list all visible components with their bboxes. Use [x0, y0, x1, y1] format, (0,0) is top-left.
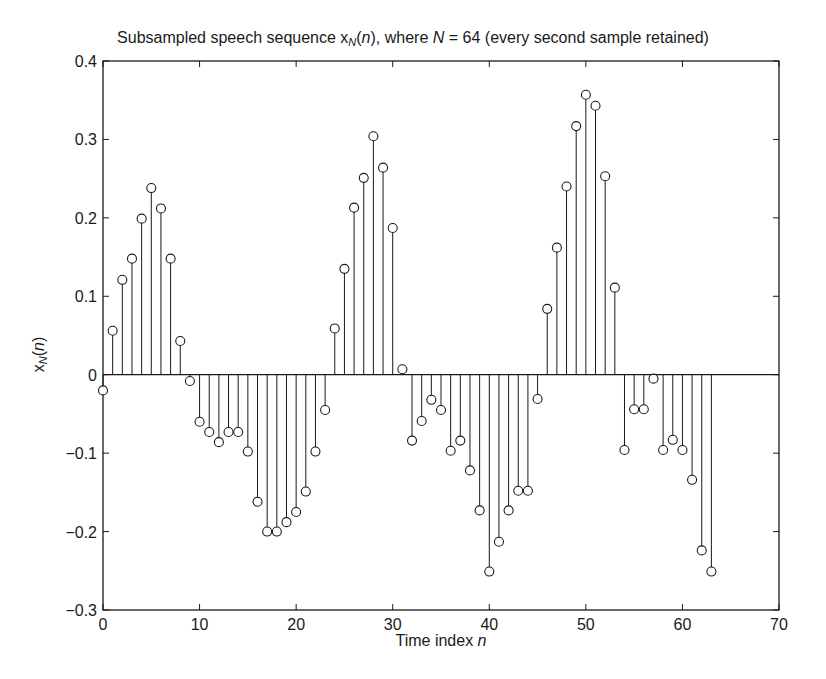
- stem-marker: [253, 497, 262, 506]
- x-tick-label: 0: [99, 616, 108, 633]
- stem-marker: [572, 122, 581, 131]
- stem-marker: [562, 182, 571, 191]
- y-axis-label: xN(n): [30, 337, 49, 373]
- stem-marker: [301, 487, 310, 496]
- stem-marker: [340, 264, 349, 273]
- x-tick-label: 60: [674, 616, 692, 633]
- stem-marker: [398, 365, 407, 374]
- stem-marker: [523, 486, 532, 495]
- stem-marker: [311, 447, 320, 456]
- y-tick-label: 0.4: [75, 53, 97, 70]
- y-tick-label: −0.3: [65, 602, 97, 619]
- stem-marker: [475, 506, 484, 515]
- stem-marker: [166, 254, 175, 263]
- y-tick-label: 0.2: [75, 210, 97, 227]
- stem-marker: [243, 447, 252, 456]
- stem-marker: [118, 275, 127, 284]
- stem-marker: [591, 101, 600, 110]
- stem-marker: [659, 446, 668, 455]
- stem-marker: [214, 438, 223, 447]
- axes-box: [103, 61, 779, 610]
- stem-plot: 010203040506070−0.3−0.2−0.100.10.20.30.4: [0, 0, 826, 679]
- stem-marker: [156, 204, 165, 213]
- stem-marker: [514, 486, 523, 495]
- stem-marker: [176, 336, 185, 345]
- stem-marker: [668, 435, 677, 444]
- stem-marker: [108, 326, 117, 335]
- stem-marker: [678, 446, 687, 455]
- stem-marker: [195, 417, 204, 426]
- stem-marker: [388, 224, 397, 233]
- y-tick-label: −0.1: [65, 445, 97, 462]
- x-tick-label: 70: [770, 616, 788, 633]
- stem-marker: [379, 163, 388, 172]
- stem-marker: [465, 466, 474, 475]
- x-tick-label: 40: [480, 616, 498, 633]
- stem-marker: [533, 395, 542, 404]
- x-tick-label: 10: [191, 616, 209, 633]
- stem-marker: [446, 446, 455, 455]
- stem-marker: [649, 374, 658, 383]
- stem-marker: [427, 395, 436, 404]
- stem-marker: [639, 405, 648, 414]
- stem-marker: [552, 243, 561, 252]
- x-axis-label: Time index n: [103, 632, 779, 650]
- stem-marker: [282, 518, 291, 527]
- x-tick-label: 30: [384, 616, 402, 633]
- stem-marker: [417, 416, 426, 425]
- stem-marker: [292, 507, 301, 516]
- y-tick-label: −0.2: [65, 524, 97, 541]
- stem-marker: [99, 386, 108, 395]
- y-tick-label: 0: [88, 367, 97, 384]
- x-tick-label: 50: [577, 616, 595, 633]
- stem-marker: [504, 506, 513, 515]
- stem-marker: [688, 475, 697, 484]
- stem-marker: [707, 567, 716, 576]
- y-tick-label: 0.3: [75, 131, 97, 148]
- stem-marker: [581, 90, 590, 99]
- stem-marker: [369, 132, 378, 141]
- y-tick-label: 0.1: [75, 288, 97, 305]
- stem-marker: [321, 406, 330, 415]
- stem-marker: [137, 214, 146, 223]
- stem-marker: [330, 324, 339, 333]
- stem-marker: [359, 173, 368, 182]
- stem-marker: [224, 427, 233, 436]
- stem-marker: [272, 527, 281, 536]
- stem-marker: [263, 527, 272, 536]
- stem-marker: [127, 254, 136, 263]
- stem-marker: [494, 537, 503, 546]
- stem-marker: [485, 567, 494, 576]
- stem-marker: [185, 376, 194, 385]
- stem-marker: [697, 546, 706, 555]
- stem-marker: [408, 436, 417, 445]
- stem-marker: [543, 304, 552, 313]
- x-tick-label: 20: [287, 616, 305, 633]
- stem-marker: [630, 405, 639, 414]
- stem-marker: [350, 203, 359, 212]
- stem-marker: [147, 184, 156, 193]
- stem-marker: [610, 283, 619, 292]
- stem-marker: [456, 436, 465, 445]
- stem-marker: [620, 446, 629, 455]
- stem-marker: [601, 172, 610, 181]
- stem-marker: [234, 427, 243, 436]
- stem-marker: [437, 406, 446, 415]
- stem-marker: [205, 427, 214, 436]
